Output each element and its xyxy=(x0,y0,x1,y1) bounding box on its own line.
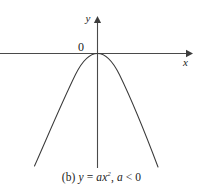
y-axis-label: y xyxy=(85,12,91,24)
caption-part-label: (b) xyxy=(62,171,76,183)
figure-container: y x 0 (b) y = ax2, a < 0 xyxy=(0,0,203,191)
parabola-curve xyxy=(35,54,159,168)
caption-condition-rhs: 0 xyxy=(135,171,141,183)
y-axis-arrowhead xyxy=(94,16,101,23)
figure-caption: (b) y = ax2, a < 0 xyxy=(0,170,203,183)
origin-label: 0 xyxy=(78,40,84,54)
x-axis-label: x xyxy=(182,56,188,68)
parabola-plot: y x 0 xyxy=(0,0,203,191)
